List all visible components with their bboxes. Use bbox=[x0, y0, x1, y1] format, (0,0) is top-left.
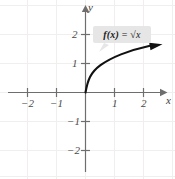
equation-callout-box: f(x) = √x bbox=[93, 26, 151, 43]
curve-arrowhead bbox=[149, 43, 162, 50]
callout-pointer bbox=[99, 43, 109, 52]
y-tick-label-neg2: −2 bbox=[67, 145, 80, 156]
x-tick-label-1: 1 bbox=[112, 98, 118, 109]
x-axis-label: x bbox=[166, 95, 171, 106]
x-tick-label-neg1: −1 bbox=[50, 98, 63, 109]
sqrt-curve bbox=[86, 46, 151, 93]
graph-figure: −2 −1 1 2 2 1 −1 −2 x y f(x) = √x bbox=[0, 0, 175, 179]
x-tick-label-2: 2 bbox=[141, 98, 147, 109]
equation-function-part: f(x) bbox=[103, 29, 119, 40]
y-tick-label-neg1: −1 bbox=[67, 116, 80, 127]
y-tick-label-1: 1 bbox=[72, 58, 78, 69]
y-tick-label-2: 2 bbox=[72, 29, 78, 40]
equation-radical-part: √x bbox=[130, 29, 140, 40]
equation-label: f(x) = √x bbox=[103, 29, 140, 40]
y-axis-label: y bbox=[88, 2, 93, 13]
x-tick-label-neg2: −2 bbox=[21, 98, 34, 109]
